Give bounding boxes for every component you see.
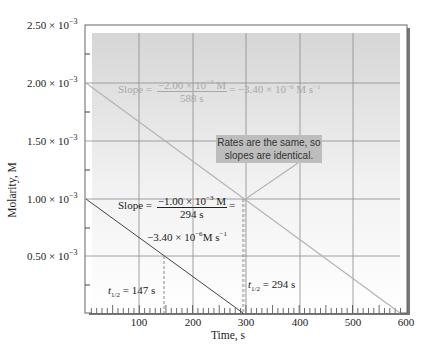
y-axis-label: Molarity, M <box>6 162 18 217</box>
x-tick-label: 300 <box>238 316 255 328</box>
slope-annotation-top: Slope = −2.00 × 10−3 M588 s= −3.40 × 10−… <box>118 78 321 104</box>
half-life-label-147: t1/2 = 147 s <box>108 284 155 299</box>
callout-box: Rates are the same, so slopes are identi… <box>216 135 322 163</box>
x-tick-label: 600 <box>398 316 415 328</box>
y-tick-label: 1.50 × 10−3 <box>27 133 77 147</box>
chart-plot <box>0 0 433 355</box>
slope-annotation-bottom: Slope = −1.00 × 10−3 M294 s= <box>118 194 235 220</box>
y-tick-label: 2.00 × 10−3 <box>27 75 77 89</box>
y-tick-label: 1.00 × 10−3 <box>27 191 77 205</box>
x-tick-label: 100 <box>131 316 148 328</box>
slope-annotation-bottom-result: −3.40 × 10−6M s−1 <box>147 230 227 243</box>
callout-line-2: slopes are identical. <box>216 150 322 163</box>
y-tick-label: 0.50 × 10−3 <box>27 248 77 262</box>
x-tick-label: 200 <box>185 316 202 328</box>
y-tick-label: 2.50 × 10−3 <box>27 17 77 31</box>
x-tick-label: 500 <box>345 316 362 328</box>
callout-line-1: Rates are the same, so <box>216 137 322 150</box>
x-tick-label: 400 <box>292 316 309 328</box>
x-axis-label: Time, s <box>211 329 245 341</box>
half-life-label-294: t1/2 = 294 s <box>248 278 295 293</box>
